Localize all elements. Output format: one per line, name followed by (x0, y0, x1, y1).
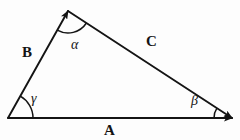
vector-c-label: C (146, 34, 157, 49)
angle-gamma-label: γ (31, 92, 37, 106)
vector-c-line (68, 11, 232, 118)
angle-arcs (20, 23, 217, 118)
vector-b-line (8, 11, 68, 118)
triangle-vector-figure: A B C α β γ (0, 0, 240, 140)
angle-beta-label: β (191, 94, 198, 108)
triangle-sides (8, 11, 232, 118)
angle-beta-arc (214, 108, 217, 118)
angle-alpha-arc (57, 23, 86, 33)
vector-b-label: B (22, 45, 32, 60)
angle-alpha-label: α (71, 38, 78, 52)
vector-a-label: A (104, 123, 115, 138)
triangle-svg-canvas (0, 0, 240, 140)
